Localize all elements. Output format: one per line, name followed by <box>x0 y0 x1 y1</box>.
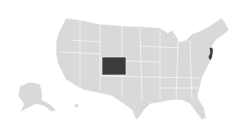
hawaii <box>74 104 79 108</box>
state-colorado <box>102 57 126 75</box>
alaska <box>18 82 56 112</box>
us-map <box>0 0 241 136</box>
contiguous-us <box>56 18 229 120</box>
